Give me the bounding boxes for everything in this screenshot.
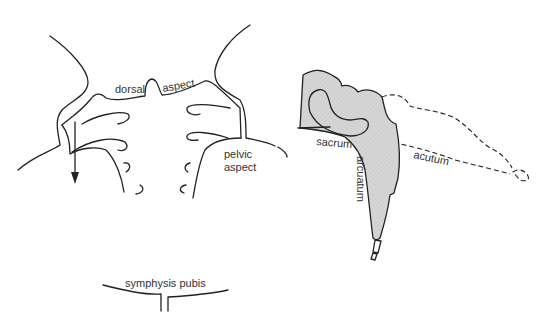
faint-contour xyxy=(278,147,287,157)
process-left-1 xyxy=(82,113,129,124)
coccyx-segment-1 xyxy=(373,240,381,253)
right-outer-contour xyxy=(215,25,275,146)
label-sacrum: sacrum xyxy=(316,135,353,150)
label-aspect-bottom: aspect xyxy=(224,161,256,173)
process-right-4 xyxy=(180,185,186,193)
process-right-1 xyxy=(187,105,230,115)
anatomy-diagram: dorsal aspect pelvic aspect symphysis pu… xyxy=(0,0,549,323)
dorsal-view: dorsal aspect pelvic aspect xyxy=(18,25,275,198)
symphysis-right xyxy=(168,290,228,311)
process-left-4 xyxy=(136,185,143,194)
label-pelvic: pelvic xyxy=(224,148,253,160)
dashed-coccyx-tip xyxy=(513,170,529,181)
label-acutum: acutum xyxy=(413,148,451,167)
label-arcuatum: arcuatum xyxy=(355,156,367,202)
left-lower-contour xyxy=(62,125,124,192)
label-dorsal: dorsal xyxy=(115,83,145,95)
label-symphysis-pubis: symphysis pubis xyxy=(125,277,206,289)
left-inner-contour xyxy=(62,79,241,138)
process-left-3 xyxy=(124,163,130,172)
coccyx-segment-2 xyxy=(371,253,377,260)
symphysis-view: symphysis pubis xyxy=(103,277,228,311)
lateral-view: sacrum arcuatum acutum xyxy=(278,70,529,260)
process-right-2 xyxy=(187,132,228,140)
process-right-3 xyxy=(185,163,190,172)
arrow-head-icon xyxy=(71,172,79,184)
